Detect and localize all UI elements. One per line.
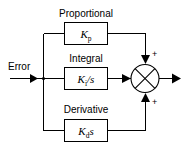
label-error: Error [8, 61, 31, 72]
sign-top: + [152, 49, 157, 59]
diagram-canvas: Kp Ki/s Kds Proportional Integral Deriva… [0, 0, 185, 155]
caption-derivative: Derivative [64, 104, 109, 115]
arrowhead-sum-bottom [141, 93, 150, 102]
gain-sub-proportional: p [88, 34, 92, 43]
node-dot-branch [42, 77, 45, 80]
caption-proportional: Proportional [59, 8, 113, 19]
arrowhead-output [172, 74, 181, 84]
caption-integral: Integral [69, 53, 102, 64]
arrowhead-sum-left [122, 74, 131, 83]
gain-suffix-integral: /s [86, 73, 94, 85]
pid-block-diagram: Kp Ki/s Kds Proportional Integral Deriva… [0, 0, 185, 155]
arrowhead-sum-top [141, 55, 150, 64]
sign-bottom: + [152, 97, 157, 107]
arrowhead-error-input [30, 74, 38, 83]
gain-suffix-derivative: s [89, 125, 93, 137]
